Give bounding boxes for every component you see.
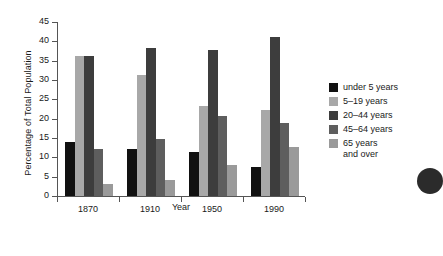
bar — [146, 48, 156, 196]
bar — [137, 75, 147, 196]
y-tick-mark — [52, 138, 57, 139]
y-tick-mark — [52, 177, 57, 178]
legend-item[interactable]: 45–64 years — [329, 124, 427, 135]
legend-swatch-icon — [329, 111, 338, 120]
bar — [156, 139, 166, 196]
legend-item-label: 5–19 years — [343, 96, 388, 107]
bar — [127, 149, 137, 196]
legend-item-label: 65 years and over — [343, 138, 378, 160]
bar — [94, 149, 104, 196]
y-axis-line — [57, 22, 58, 197]
y-tick-label: 0 — [27, 190, 49, 200]
y-tick-label: 15 — [27, 132, 49, 142]
bar — [103, 184, 113, 196]
x-tick-mark — [305, 197, 306, 202]
y-tick-label: 30 — [27, 74, 49, 84]
legend-swatch-icon — [329, 83, 338, 92]
legend-swatch-icon — [329, 125, 338, 134]
bar — [165, 180, 175, 196]
y-tick-label: 25 — [27, 93, 49, 103]
y-tick-label: 35 — [27, 55, 49, 65]
legend-item[interactable]: 5–19 years — [329, 96, 427, 107]
y-tick-mark — [52, 99, 57, 100]
y-tick-label: 10 — [27, 151, 49, 161]
bar — [227, 165, 237, 196]
y-tick-mark — [52, 41, 57, 42]
bar — [270, 37, 280, 196]
bar — [261, 110, 271, 196]
y-tick-label: 45 — [27, 16, 49, 26]
bar — [84, 56, 94, 196]
y-tick-mark — [52, 61, 57, 62]
chart-legend: under 5 years5–19 years20–44 years45–64 … — [329, 82, 427, 163]
legend-swatch-icon — [329, 97, 338, 106]
x-axis-title: Year — [57, 202, 305, 212]
y-tick-mark — [52, 22, 57, 23]
bar — [65, 142, 75, 196]
legend-item-label: under 5 years — [343, 82, 398, 93]
legend-item[interactable]: 65 years and over — [329, 138, 427, 160]
y-tick-label: 40 — [27, 35, 49, 45]
y-tick-label: 20 — [27, 113, 49, 123]
legend-item[interactable]: 20–44 years — [329, 110, 427, 121]
bar — [251, 167, 261, 196]
legend-item-label: 20–44 years — [343, 110, 393, 121]
plot-area: 051015202530354045 1870191019501990 — [57, 22, 305, 197]
y-tick-mark — [52, 157, 57, 158]
bar — [280, 123, 290, 196]
bar — [208, 50, 218, 196]
legend-item-label: 45–64 years — [343, 124, 393, 135]
y-tick-label: 5 — [27, 171, 49, 181]
y-tick-mark — [52, 119, 57, 120]
bar — [289, 147, 299, 196]
bar — [199, 106, 209, 196]
legend-swatch-icon — [329, 139, 338, 148]
bar — [218, 116, 228, 196]
bar — [75, 56, 85, 196]
y-tick-mark — [52, 80, 57, 81]
edge-artifact-shape — [417, 168, 443, 194]
legend-item[interactable]: under 5 years — [329, 82, 427, 93]
bar — [189, 152, 199, 196]
